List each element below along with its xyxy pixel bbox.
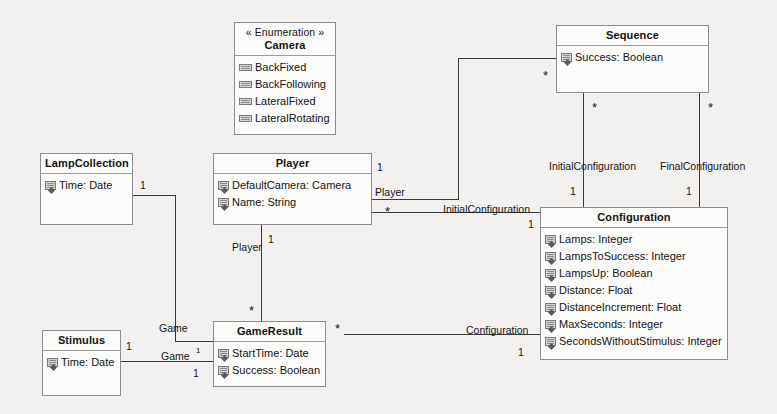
attribute-icon <box>218 198 229 207</box>
class-attribute: Distance: Float <box>545 282 725 299</box>
assoc-label-player-gameresult: Player <box>232 241 262 253</box>
attribute-label: Distance: Float <box>559 283 632 298</box>
class-body-lampcollection: Time: Date <box>41 174 132 198</box>
class-name-gameresult: GameResult <box>237 325 302 337</box>
attribute-icon <box>45 181 56 190</box>
attribute-icon <box>545 235 556 244</box>
attribute-label: DistanceIncrement: Float <box>559 300 681 315</box>
connector-player-sequence-bottom <box>372 199 459 200</box>
enum-literal-label: BackFixed <box>255 60 306 75</box>
class-header-camera: « Enumeration » Camera <box>235 23 335 55</box>
class-attribute: DistanceIncrement: Float <box>545 299 725 316</box>
attribute-label: Time: Date <box>61 355 114 370</box>
class-header-sequence: Sequence <box>557 26 708 45</box>
class-name-stimulus: Stimulus <box>58 334 105 346</box>
attribute-label: Time: Date <box>59 178 112 193</box>
connector-sequence-finalconfiguration <box>699 93 700 207</box>
connector-player-sequence-vertical <box>458 58 459 199</box>
class-attribute: Time: Date <box>47 354 118 371</box>
class-name-player: Player <box>276 157 310 169</box>
attribute-label: LampsUp: Boolean <box>559 266 653 281</box>
connector-lampcollection-right <box>133 195 175 196</box>
enum-literal: LateralRotating <box>239 110 333 127</box>
attribute-label: SecondsWithoutStimulus: Integer <box>559 334 722 349</box>
connector-lampcollection-vertical <box>175 195 176 341</box>
attribute-label: Name: String <box>232 195 296 210</box>
connector-sequence-initialconfiguration <box>583 93 584 207</box>
class-header-player: Player <box>214 154 371 173</box>
assoc-label-sequence-initialconfiguration: InitialConfiguration <box>549 160 636 172</box>
uml-class-diagram-canvas: « Enumeration » Camera BackFixed BackFol… <box>0 0 777 414</box>
multiplicity-player-gameresult-star: * <box>249 307 254 315</box>
class-box-lampcollection[interactable]: LampCollection Time: Date <box>40 153 133 225</box>
class-box-camera[interactable]: « Enumeration » Camera BackFixed BackFol… <box>234 22 336 135</box>
connector-player-gameresult <box>261 225 262 321</box>
class-attribute: Success: Boolean <box>561 49 706 66</box>
multiplicity-player-configuration-one: 1 <box>528 218 534 230</box>
attribute-label: Success: Boolean <box>232 363 320 378</box>
class-body-sequence: Success: Boolean <box>557 46 708 70</box>
attribute-icon <box>545 320 556 329</box>
attribute-icon <box>545 269 556 278</box>
enum-literal-label: LateralRotating <box>255 111 330 126</box>
attribute-label: StartTime: Date <box>232 346 309 361</box>
connector-player-sequence-top <box>458 58 557 59</box>
attribute-icon <box>218 366 229 375</box>
class-body-configuration: Lamps: Integer LampsToSuccess: Integer L… <box>541 228 727 354</box>
multiplicity-seq-initial-one: 1 <box>570 185 576 197</box>
class-attribute: LampsUp: Boolean <box>545 265 725 282</box>
attribute-icon <box>545 252 556 261</box>
class-attribute: StartTime: Date <box>218 345 323 362</box>
class-body-gameresult: StartTime: Date Success: Boolean <box>214 342 325 383</box>
class-attribute: Time: Date <box>45 177 130 194</box>
attribute-icon <box>218 181 229 190</box>
assoc-label-player-configuration: InitialConfiguration <box>443 203 530 215</box>
attribute-label: LampsToSuccess: Integer <box>559 249 686 264</box>
assoc-label-gameresult-configuration: Configuration <box>466 324 528 336</box>
class-name-sequence: Sequence <box>606 29 659 41</box>
attribute-icon <box>561 53 572 62</box>
class-box-gameresult[interactable]: GameResult StartTime: Date Success: Bool… <box>213 321 326 387</box>
enum-literal-label: BackFollowing <box>255 77 326 92</box>
attribute-label: Success: Boolean <box>575 50 663 65</box>
attribute-icon <box>545 303 556 312</box>
class-attribute: DefaultCamera: Camera <box>218 177 369 194</box>
multiplicity-seq-final-star: * <box>708 104 713 112</box>
enum-literal: BackFixed <box>239 59 333 76</box>
multiplicity-stimulus-one: 1 <box>126 340 132 352</box>
class-name-lampcollection: LampCollection <box>45 157 129 169</box>
class-header-lampcollection: LampCollection <box>41 154 132 173</box>
connector-lampcollection-gameresult <box>175 341 213 342</box>
class-stereotype-camera: « Enumeration » <box>239 26 331 39</box>
class-name-configuration: Configuration <box>597 211 670 223</box>
class-box-configuration[interactable]: Configuration Lamps: Integer LampsToSucc… <box>540 207 728 360</box>
class-box-sequence[interactable]: Sequence Success: Boolean <box>556 25 709 93</box>
multiplicity-player-sequence-one: 1 <box>377 161 383 173</box>
multiplicity-player-gameresult-one: 1 <box>268 233 274 245</box>
class-box-stimulus[interactable]: Stimulus Time: Date <box>42 330 121 396</box>
class-attribute: SecondsWithoutStimulus: Integer <box>545 333 725 350</box>
assoc-label-player-sequence: Player <box>375 186 405 198</box>
class-header-configuration: Configuration <box>541 208 727 227</box>
class-attribute: Name: String <box>218 194 369 211</box>
attribute-icon <box>545 337 556 346</box>
class-header-gameresult: GameResult <box>214 322 325 341</box>
multiplicity-stimulus-game-superscript: 1 <box>196 345 200 357</box>
enum-literal-icon <box>239 115 252 122</box>
class-body-camera: BackFixed BackFollowing LateralFixed Lat… <box>235 56 335 131</box>
attribute-label: MaxSeconds: Integer <box>559 317 663 332</box>
multiplicity-seq-initial-star: * <box>592 104 597 112</box>
attribute-icon <box>545 286 556 295</box>
multiplicity-seq-final-one: 1 <box>686 185 692 197</box>
class-body-stimulus: Time: Date <box>43 351 120 375</box>
class-box-player[interactable]: Player DefaultCamera: Camera Name: Strin… <box>213 153 372 225</box>
class-body-player: DefaultCamera: Camera Name: String <box>214 174 371 215</box>
enum-literal-label: LateralFixed <box>255 94 316 109</box>
assoc-label-sequence-finalconfiguration: FinalConfiguration <box>660 160 745 172</box>
multiplicity-gameresult-configuration-one: 1 <box>518 346 524 358</box>
multiplicity-sequence-left-star: * <box>543 72 548 80</box>
class-name-camera: Camera <box>265 39 306 51</box>
class-header-stimulus: Stimulus <box>43 331 120 350</box>
multiplicity-player-sequence-star: * <box>385 208 390 216</box>
attribute-icon <box>218 349 229 358</box>
